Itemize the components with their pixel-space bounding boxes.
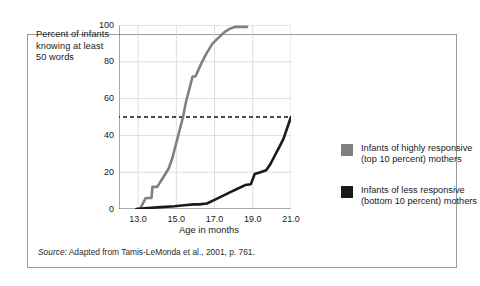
- y-tick-label: 0: [92, 205, 114, 214]
- plot-area: [119, 25, 291, 209]
- source-label: Source:: [38, 247, 67, 257]
- source-note: Source: Adapted from Tamis-LeMonda et al…: [38, 247, 255, 257]
- legend-swatch-highly-responsive: [341, 144, 353, 156]
- series-line-less-responsive: [136, 117, 291, 209]
- source-citation: Adapted from Tamis-LeMonda et al., 2001,…: [67, 247, 255, 257]
- series-line-highly-responsive: [136, 27, 247, 209]
- y-tick-label: 60: [92, 94, 114, 103]
- x-tick-label: 19.0: [238, 215, 268, 224]
- y-tick-label: 100: [92, 21, 114, 30]
- legend-label: Infants of highly responsive (top 10 per…: [361, 143, 477, 166]
- chart-legend: Infants of highly responsive (top 10 per…: [341, 143, 477, 227]
- y-tick-label: 40: [92, 131, 114, 140]
- legend-label: Infants of less responsive (bottom 10 pe…: [361, 185, 477, 208]
- x-tick-label: 21.0: [276, 215, 306, 224]
- x-tick-label: 15.0: [161, 215, 191, 224]
- legend-swatch-less-responsive: [341, 186, 353, 198]
- figure-root: Percent of infants knowing at least 50 w…: [0, 0, 480, 286]
- legend-entry: Infants of less responsive (bottom 10 pe…: [341, 185, 477, 217]
- y-tick-label: 80: [92, 57, 114, 66]
- x-axis-title: Age in months: [119, 224, 299, 235]
- x-tick-label: 17.0: [200, 215, 230, 224]
- x-tick-label: 13.0: [123, 215, 153, 224]
- y-tick-label: 20: [92, 168, 114, 177]
- line-chart-svg: [119, 25, 291, 209]
- legend-entry: Infants of highly responsive (top 10 per…: [341, 143, 477, 175]
